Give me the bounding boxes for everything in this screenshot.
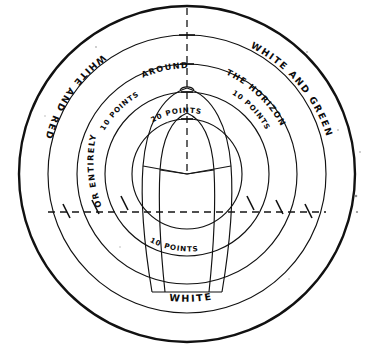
label-ten-points-bottom-text: 10 POINTS — [149, 235, 199, 253]
label-group: WHITE AND RED WHITE AND GREEN OR ENTIREL… — [43, 39, 335, 303]
paper-speck — [356, 211, 358, 213]
paper-speck — [119, 246, 121, 248]
label-around-text: AROUND — [140, 60, 190, 80]
paper-speck — [167, 122, 168, 123]
label-white-and-red-text: WHITE AND RED — [43, 53, 108, 142]
tick-right-outer — [305, 204, 312, 218]
figure-root: WHITE AND RED WHITE AND GREEN OR ENTIREL… — [0, 0, 375, 348]
paper-speck — [44, 115, 46, 117]
label-around: AROUND — [140, 60, 190, 80]
paper-speck — [337, 129, 339, 131]
paper-speck — [355, 195, 358, 198]
lantern-right-edge — [187, 88, 232, 292]
paper-speck — [288, 278, 290, 280]
paper-speck — [95, 46, 97, 48]
tick-left-third — [121, 196, 128, 210]
tick-right-third — [247, 196, 254, 210]
navigation-lights-diagram: WHITE AND RED WHITE AND GREEN OR ENTIREL… — [0, 0, 375, 348]
lantern-inner-right-edge — [187, 113, 215, 292]
paper-speck — [359, 151, 361, 153]
label-white-and-red: WHITE AND RED — [43, 53, 108, 142]
label-ten-points-bottom: 10 POINTS — [149, 235, 199, 253]
paper-speck — [306, 51, 308, 53]
label-or-entirely-text: OR ENTIRELY — [85, 133, 103, 209]
label-or-entirely: OR ENTIRELY — [85, 133, 103, 209]
tick-left-outer — [63, 204, 70, 218]
lantern-inner-left-edge — [159, 113, 187, 292]
